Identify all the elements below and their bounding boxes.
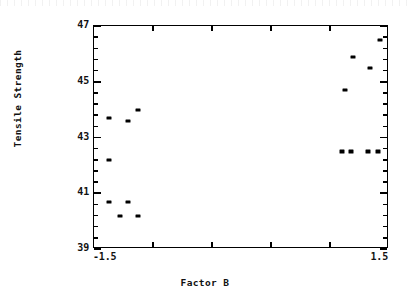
x-axis-minor-tick — [329, 26, 331, 31]
data-point — [342, 89, 347, 92]
y-axis-tick-label: 41 — [77, 187, 89, 197]
y-axis-major-tick — [94, 25, 101, 27]
y-axis-minor-tick — [94, 70, 98, 72]
y-axis-minor-tick — [383, 48, 387, 50]
x-axis-tick-labels: -1.51.5 — [93, 252, 388, 266]
y-axis-title: Tensile Strength — [12, 39, 23, 159]
y-axis-tick-labels: 3941434547 — [60, 25, 89, 248]
y-axis-minor-tick — [383, 103, 387, 105]
y-axis-minor-tick — [383, 170, 387, 172]
y-axis-minor-tick — [94, 226, 98, 228]
y-axis-minor-tick — [383, 237, 387, 239]
y-axis-minor-tick — [94, 36, 98, 38]
scan-artifact-band — [0, 0, 410, 6]
x-axis-minor-tick — [270, 242, 272, 247]
y-axis-minor-tick — [383, 226, 387, 228]
x-axis-minor-tick — [152, 242, 154, 247]
x-axis-tick-label: 1.5 — [371, 252, 388, 262]
data-point — [348, 150, 353, 153]
y-axis-minor-tick — [94, 159, 98, 161]
y-axis-major-tick — [380, 248, 387, 250]
data-point — [376, 150, 381, 153]
y-axis-minor-tick — [94, 48, 98, 50]
data-point — [136, 214, 141, 217]
y-axis-minor-tick — [94, 148, 98, 150]
x-axis-tick-label: -1.5 — [93, 252, 116, 262]
y-axis-minor-tick — [94, 114, 98, 116]
x-axis-minor-tick — [329, 242, 331, 247]
plot-frame — [93, 25, 388, 248]
y-axis-major-tick — [380, 81, 387, 83]
data-point — [339, 150, 344, 153]
y-axis-minor-tick — [94, 215, 98, 217]
y-axis-minor-tick — [383, 204, 387, 206]
y-axis-minor-tick — [383, 92, 387, 94]
y-axis-minor-tick — [94, 181, 98, 183]
scatter-plot-figure: Tensile Strength 3941434547 -1.51.5 Fact… — [0, 0, 410, 297]
y-axis-minor-tick — [94, 126, 98, 128]
y-axis-major-tick — [94, 137, 101, 139]
y-axis-minor-tick — [383, 159, 387, 161]
x-axis-minor-tick — [211, 242, 213, 247]
x-axis-minor-tick — [270, 26, 272, 31]
plot-data-area — [94, 26, 387, 247]
data-point — [366, 150, 371, 153]
y-axis-minor-tick — [383, 36, 387, 38]
y-axis-tick-label: 45 — [77, 76, 89, 86]
y-axis-minor-tick — [383, 148, 387, 150]
y-axis-minor-tick — [383, 181, 387, 183]
data-point — [126, 200, 131, 203]
y-axis-minor-tick — [94, 59, 98, 61]
data-point — [378, 38, 383, 41]
y-axis-tick-label: 47 — [77, 20, 89, 30]
y-axis-minor-tick — [94, 170, 98, 172]
y-axis-minor-tick — [94, 237, 98, 239]
y-axis-minor-tick — [383, 114, 387, 116]
data-point — [106, 200, 111, 203]
y-axis-major-tick — [380, 192, 387, 194]
y-axis-major-tick — [380, 25, 387, 27]
data-point — [126, 119, 131, 122]
y-axis-major-tick — [94, 192, 101, 194]
x-axis-minor-tick — [211, 26, 213, 31]
data-point — [106, 158, 111, 161]
x-axis-minor-tick — [152, 26, 154, 31]
data-point — [117, 214, 122, 217]
y-axis-major-tick — [380, 137, 387, 139]
y-axis-tick-label: 43 — [77, 132, 89, 142]
data-point — [136, 108, 141, 111]
y-axis-minor-tick — [383, 70, 387, 72]
data-point — [368, 66, 373, 69]
x-axis-title: Factor B — [0, 277, 410, 288]
data-point — [106, 116, 111, 119]
y-axis-minor-tick — [383, 126, 387, 128]
y-axis-minor-tick — [94, 103, 98, 105]
y-axis-minor-tick — [94, 204, 98, 206]
data-point — [350, 55, 355, 58]
y-axis-tick-label: 39 — [77, 243, 89, 253]
y-axis-minor-tick — [383, 59, 387, 61]
y-axis-minor-tick — [94, 92, 98, 94]
y-axis-major-tick — [94, 248, 101, 250]
y-axis-minor-tick — [383, 215, 387, 217]
y-axis-major-tick — [94, 81, 101, 83]
